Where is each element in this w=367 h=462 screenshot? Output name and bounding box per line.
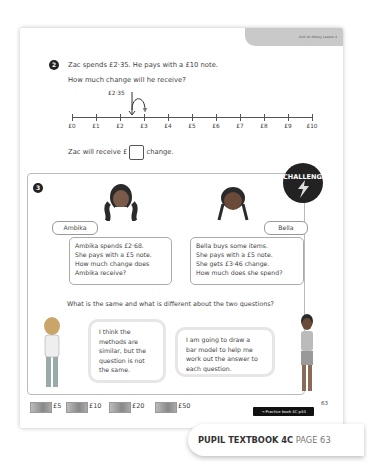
- bubble-line: methods are: [99, 337, 155, 347]
- bella-question: Bella buys some items. She pays with a £…: [190, 237, 304, 285]
- bella-name-label: Bella: [264, 221, 308, 235]
- twenty-pound-note-icon: [109, 402, 131, 413]
- footer-page: PAGE 63: [296, 435, 331, 445]
- tick-label: £0: [68, 123, 75, 129]
- ambika-question: Ambika spends £2·68. She pays with a £5 …: [69, 237, 172, 285]
- footer-book-title: PUPIL TEXTBOOK 4C: [198, 435, 293, 445]
- tick-label: £4: [164, 123, 171, 129]
- answer-suffix: change.: [146, 148, 173, 156]
- bubble-line: similar, but the: [99, 346, 155, 356]
- bella-line: She pays with a £5 note.: [196, 250, 298, 259]
- tick-label: £1: [92, 123, 99, 129]
- bubble-line: bar model to help me: [186, 345, 264, 355]
- marker-label: £2·35: [108, 90, 125, 96]
- number-line: £0 £1 £2 £3 £4 £5 £6 £7 £8 £9 £10: [72, 117, 313, 118]
- bella-character-icon: [215, 184, 251, 222]
- ambika-line: How much change does: [75, 259, 166, 268]
- fifty-pound-note-icon: [155, 402, 177, 413]
- answer-box[interactable]: [129, 145, 144, 160]
- bella-line: How much does she spend?: [196, 268, 298, 277]
- note-label: £20: [132, 402, 144, 410]
- tick-label: £2: [116, 123, 123, 129]
- bubble-line: I think the: [99, 327, 155, 337]
- ambika-line: Ambika spends £2·68.: [75, 241, 166, 250]
- bella-line: She gets £3·46 change.: [196, 259, 298, 268]
- page-number: 63: [321, 400, 328, 406]
- tick-label: £10: [306, 123, 317, 129]
- bubble-line: I am going to draw a: [186, 335, 264, 345]
- answer-sentence: Zac will receive £change.: [68, 145, 174, 160]
- boy-character-icon: [297, 313, 317, 393]
- bubble-line: question is not: [99, 356, 155, 366]
- footer-text: PUPIL TEXTBOOK 4C PAGE 63: [198, 435, 331, 445]
- bubble-line: each question.: [186, 364, 264, 374]
- note-label: £50: [178, 402, 190, 410]
- tick-label: £5: [188, 123, 195, 129]
- ambika-line: She pays with a £5 note.: [75, 250, 166, 259]
- bubble-line: work out the answer to: [186, 354, 264, 364]
- lightning-icon: [295, 180, 311, 198]
- tick-label: £3: [140, 123, 147, 129]
- question-2-line1: Zac spends £2·35. He pays with a £10 not…: [68, 61, 218, 69]
- question-3-number: 3: [33, 183, 43, 193]
- question-2-line2: How much change will he receive?: [68, 76, 186, 84]
- comparison-prompt: What is the same and what is different a…: [67, 300, 274, 308]
- unit-tab: Unit 10 Money Lesson 4: [245, 28, 343, 46]
- speech-bubble-left: I think the methods are similar, but the…: [88, 319, 166, 383]
- speech-bubble-right: I am going to draw a bar model to help m…: [175, 327, 275, 377]
- tick-label: £8: [260, 123, 267, 129]
- note-label: £5: [53, 402, 61, 410]
- bubble-line: the same.: [99, 365, 155, 375]
- bella-line: Bella buys some items.: [196, 241, 298, 250]
- ten-pound-note-icon: [66, 402, 88, 413]
- answer-prefix: Zac will receive £: [68, 148, 127, 156]
- five-pound-note-icon: [30, 402, 52, 413]
- challenge-badge: CHALLENGE: [283, 163, 323, 203]
- question-2-number: 2: [49, 60, 59, 70]
- ambika-name-label: Ambika: [52, 221, 98, 235]
- tick-label: £6: [212, 123, 219, 129]
- tick-label: £9: [284, 123, 291, 129]
- practice-book-link[interactable]: → Practice book 4C p44: [253, 407, 314, 416]
- tick-label: £7: [236, 123, 243, 129]
- jump-arrow-icon: [125, 92, 151, 118]
- note-label: £10: [89, 402, 101, 410]
- ambika-character-icon: [101, 181, 141, 221]
- girl-character-icon: [40, 316, 64, 391]
- ambika-line: Ambika receive?: [75, 268, 166, 277]
